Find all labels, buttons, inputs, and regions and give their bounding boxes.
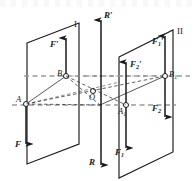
f-prime-mark: ′ bbox=[56, 39, 59, 49]
f-base: F bbox=[15, 139, 21, 149]
plane-1-label: I bbox=[74, 20, 77, 29]
vector-f-label: F bbox=[15, 140, 21, 149]
point-a1-sub: 1 bbox=[123, 111, 126, 117]
r-base: R bbox=[89, 157, 95, 167]
vector-f2-prime-label: F2′ bbox=[130, 60, 142, 70]
vector-f-prime-label: F′ bbox=[50, 40, 59, 49]
point-b1-marker bbox=[163, 74, 168, 79]
plane-2-label: II bbox=[177, 27, 183, 36]
point-a1-label: A1 bbox=[118, 107, 126, 117]
point-o-label: O bbox=[89, 93, 95, 102]
f1-prime-mark: ′ bbox=[161, 36, 164, 46]
f2-sub: 2 bbox=[158, 108, 161, 114]
force-couple-diagram: I II B A O A1 B1 F′ F F1′ F2′ F1 F2 R′ R bbox=[0, 0, 194, 181]
vector-r-prime-label: R′ bbox=[104, 11, 113, 20]
point-b-label: B bbox=[57, 69, 62, 78]
vector-r-label: R bbox=[89, 158, 95, 167]
vector-f1-label: F1 bbox=[115, 148, 124, 158]
diagonal-a-o-b1 bbox=[26, 104, 100, 105]
f1-sub: 1 bbox=[121, 152, 124, 158]
vector-f1-prime-label: F1′ bbox=[152, 37, 164, 47]
r-prime-mark: ′ bbox=[110, 10, 113, 20]
diagonals-through-o bbox=[26, 76, 126, 105]
point-b1-label: B1 bbox=[169, 70, 177, 80]
f2-prime-mark: ′ bbox=[139, 59, 142, 69]
point-b1-sub: 1 bbox=[174, 74, 177, 80]
vector-f2-label: F2 bbox=[152, 104, 161, 114]
diagram-canvas bbox=[0, 0, 194, 181]
point-a-label: A bbox=[16, 95, 21, 104]
